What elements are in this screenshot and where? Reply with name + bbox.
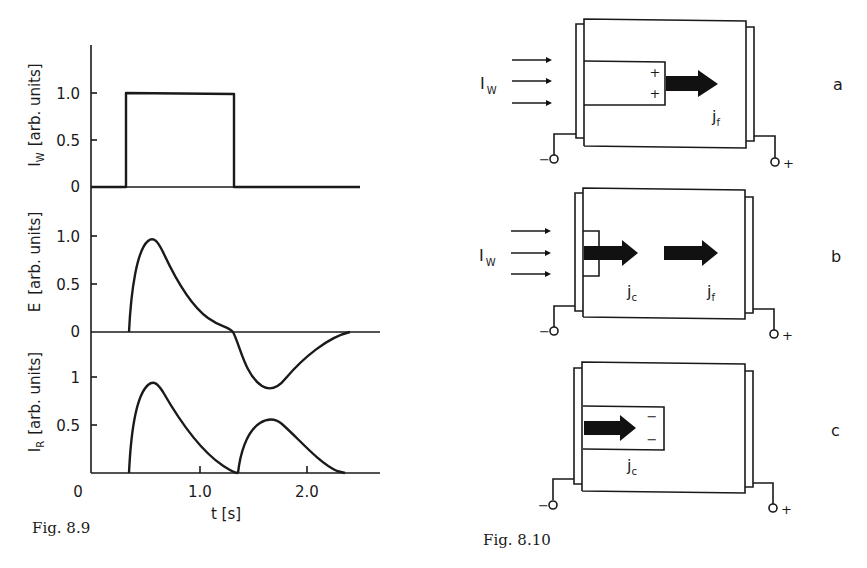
e-axis-label: E[arb. units]: [26, 212, 44, 312]
negative-sign: −: [539, 152, 550, 167]
charge-sign: −: [647, 432, 658, 447]
right-lead: [754, 136, 775, 158]
figure-caption: Fig. 8.10: [483, 531, 551, 549]
svg-text:IW[arb. units]: IW[arb. units]: [26, 63, 46, 166]
figure-caption: Fig. 8.9: [32, 519, 90, 537]
illumination-label: IW: [480, 74, 497, 96]
current-arrow-jf: [666, 70, 718, 97]
positive-terminal: [771, 158, 779, 166]
tick-label: 0.5: [56, 276, 80, 294]
negative-terminal: [550, 155, 558, 163]
negative-terminal: [550, 327, 558, 335]
tick-label: 0.5: [56, 132, 80, 150]
right-lead: [753, 309, 774, 330]
right-electrode: [746, 27, 754, 141]
right-electrode: [745, 371, 753, 487]
svg-text:E[arb. units]: E[arb. units]: [26, 212, 44, 312]
left-electrode: [574, 368, 582, 484]
tick-label: 0.5: [56, 417, 80, 435]
tick-label: 1: [70, 369, 80, 387]
fig-8-9-chart: 0 0.5 1.0 IW[arb. units] 0 0.5 1.0 E[arb…: [26, 45, 380, 537]
tick-label: 1.0: [56, 85, 80, 103]
right-lead: [753, 483, 773, 504]
ir-curve-1: [129, 383, 238, 473]
fig-8-10-diagram: − + IW + + jf a −: [479, 19, 843, 549]
tick-label: 0: [70, 323, 80, 341]
current-label: jc: [626, 282, 637, 303]
positive-terminal: [769, 504, 777, 512]
current-label: jf: [711, 107, 720, 128]
diagram-panel-b: − + IW jc jf b: [479, 188, 841, 343]
panel-letter: a: [833, 75, 843, 94]
charge-sign: −: [647, 409, 658, 424]
current-label: jc: [626, 456, 637, 477]
positive-terminal: [770, 330, 778, 338]
current-arrow-jf: [664, 240, 718, 266]
diagram-panel-a: − + IW + + jf a: [480, 19, 843, 171]
tick-label: 0: [70, 178, 80, 196]
illumination-label: IW: [479, 246, 496, 268]
charge-sign: +: [650, 86, 661, 101]
panel-letter: c: [831, 421, 840, 440]
charge-sign: +: [650, 65, 661, 80]
left-electrode: [576, 24, 584, 138]
svg-text:IR[arb. units]: IR[arb. units]: [26, 352, 46, 452]
iw-axis-label: IW[arb. units]: [26, 63, 46, 166]
negative-terminal: [549, 501, 557, 509]
left-lead: [553, 479, 574, 500]
x-tick-label: 2.0: [295, 483, 319, 501]
positive-sign: +: [781, 502, 792, 517]
left-lead: [554, 306, 575, 327]
panel-ir: 0.5 1 IR[arb. units] 0 1.0 2.0 t [s]: [26, 352, 380, 523]
panel-e: 0 0.5 1.0 E[arb. units]: [26, 212, 380, 389]
negative-sign: −: [539, 324, 550, 339]
illumination-arrows: [512, 57, 552, 106]
ir-axis-label: IR[arb. units]: [26, 352, 46, 452]
left-lead: [554, 134, 576, 155]
x-tick-label: 1.0: [188, 483, 212, 501]
negative-sign: −: [538, 498, 549, 513]
panel-iw: 0 0.5 1.0 IW[arb. units]: [26, 63, 360, 196]
left-electrode: [575, 193, 583, 311]
iw-pulse-curve: [91, 93, 360, 187]
x-axis-label: t [s]: [211, 505, 241, 523]
e-field-curve: [129, 239, 350, 388]
positive-sign: +: [783, 156, 794, 171]
tick-label: 1.0: [56, 228, 80, 246]
right-electrode: [745, 197, 753, 313]
current-arrow-jc: [584, 415, 636, 441]
positive-sign: +: [782, 328, 793, 343]
ir-curve-2: [238, 419, 345, 473]
current-label: jf: [706, 282, 715, 303]
panel-letter: b: [831, 247, 841, 266]
current-arrow-jc: [584, 240, 638, 266]
illumination-arrows: [511, 228, 551, 277]
figure-page: 0 0.5 1.0 IW[arb. units] 0 0.5 1.0 E[arb…: [0, 0, 867, 568]
x-tick-label: 0: [73, 483, 83, 501]
diagram-panel-c: − + − − jc c: [538, 362, 840, 517]
